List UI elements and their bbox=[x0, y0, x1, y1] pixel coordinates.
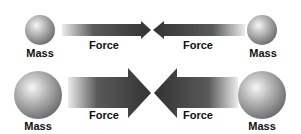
top-left-force-label: Force bbox=[89, 39, 119, 51]
bottom-left-force-label: Force bbox=[89, 109, 119, 121]
top-right-mass-label: Mass bbox=[249, 47, 277, 59]
top-left-mass-label: Mass bbox=[26, 47, 54, 59]
top-right-force-label: Force bbox=[183, 39, 213, 51]
top-right-mass-sphere bbox=[247, 15, 277, 45]
top-left-mass-sphere bbox=[25, 15, 55, 45]
bottom-right-force-label: Force bbox=[183, 109, 213, 121]
bottom-right-mass-sphere bbox=[238, 71, 286, 119]
bottom-left-mass-label: Mass bbox=[24, 120, 52, 132]
diagram-graphics bbox=[0, 0, 301, 134]
bottom-left-mass-sphere bbox=[14, 71, 62, 119]
bottom-right-mass-label: Mass bbox=[248, 120, 276, 132]
gravity-force-diagram: Mass Force Force Mass Mass Force Force M… bbox=[0, 0, 301, 134]
top-left-force-arrow bbox=[62, 21, 151, 39]
top-right-force-arrow bbox=[153, 21, 245, 39]
